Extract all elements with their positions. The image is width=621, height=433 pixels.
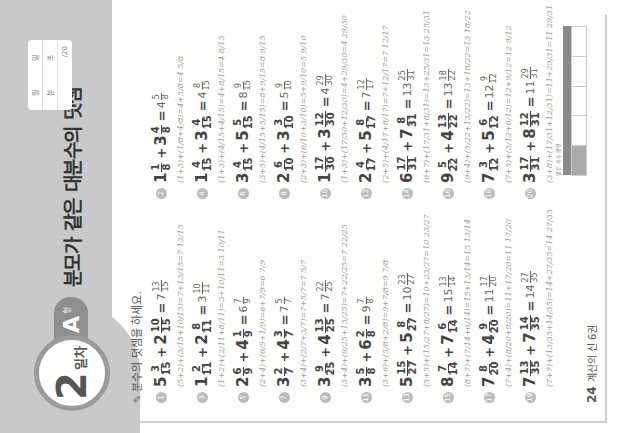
addend-b-fraction: 1322 bbox=[438, 113, 459, 129]
problem-number: 12 bbox=[361, 188, 372, 199]
problem-number: 11 bbox=[361, 392, 372, 403]
page-number: 24 bbox=[585, 386, 599, 403]
problem-number: 7 bbox=[279, 392, 290, 403]
plus-sign: + bbox=[523, 345, 538, 356]
equation: 15 8 714 + 7 614 = 15 1314 bbox=[435, 209, 461, 403]
second-label: 초 bbox=[45, 40, 55, 75]
addend-b-fraction: 48 bbox=[151, 125, 172, 134]
handwritten-work: (1+3)+(4/15+4/15)=4+8/15=4 8/15 bbox=[215, 5, 228, 183]
problem-number: 15 bbox=[443, 392, 454, 403]
addend-a-whole: 5 bbox=[152, 377, 170, 387]
plus-sign: + bbox=[195, 143, 210, 154]
problem-number: 9 bbox=[320, 392, 331, 403]
addend-b-fraction: 37 bbox=[274, 329, 295, 338]
answer[interactable]: 7 1217 bbox=[358, 76, 375, 98]
handwritten-work: (3+5)+(4/15+5/15)=8+9/15=8 9/15 bbox=[256, 5, 269, 183]
plus-sign: + bbox=[441, 143, 456, 154]
addend-b-fraction: 415 bbox=[192, 115, 213, 129]
answer[interactable]: 9 78 bbox=[358, 295, 375, 312]
worksheet-page: 2 일차 A 형 분모가 같은 대분수의 덧셈 월일 분초 /20 ✎분수의 덧… bbox=[0, 0, 621, 433]
addend-a-whole: 7 bbox=[480, 377, 498, 387]
addend-a-whole: 3 bbox=[357, 377, 375, 387]
problem-item: 8 2 610 + 3 310 = 5 910 (2+3)+(6/10+3/10… bbox=[271, 5, 312, 199]
addend-a-whole: 2 bbox=[275, 173, 293, 183]
addend-a-whole: 7 bbox=[521, 377, 539, 387]
equation: 14 6 1731 + 7 831 = 13 2531 bbox=[394, 5, 420, 199]
answer[interactable]: 3 1011 bbox=[194, 280, 211, 302]
addend-b-whole: 5 bbox=[234, 130, 252, 140]
problem-item: 7 3 27 + 4 37 = 7 57 (3+4)+(2/7+3/7)=7+5… bbox=[271, 209, 312, 403]
addend-b-fraction: 310 bbox=[274, 115, 295, 129]
handwritten-work: (1+2)+(2/11+8/11)=3+10/11=3 10/11 bbox=[215, 209, 228, 387]
plus-sign: + bbox=[154, 347, 169, 358]
addend-b-whole: 5 bbox=[398, 332, 416, 342]
addend-b-whole: 2 bbox=[152, 334, 170, 344]
addend-b-fraction: 827 bbox=[397, 317, 418, 331]
addend-a-fraction: 820 bbox=[479, 362, 500, 376]
type-suffix: 형 bbox=[61, 307, 72, 314]
problem-number: 20 bbox=[525, 188, 536, 199]
answer[interactable]: 4 58 bbox=[153, 91, 170, 108]
equation: 17 7 820 + 4 920 = 11 1720 bbox=[476, 209, 502, 403]
handwritten-work: (1+3)+(17/30+12/30)=4+29/30=4 29/30 bbox=[338, 5, 351, 183]
answer[interactable]: 12 912 bbox=[481, 71, 498, 98]
answer[interactable]: 6 79 bbox=[235, 295, 252, 312]
plus-sign: + bbox=[482, 143, 497, 154]
equation: 1 5 315 + 2 1015 = 7 1315 bbox=[148, 209, 174, 403]
addend-a-whole: 8 bbox=[439, 377, 457, 387]
addend-b-whole: 6 bbox=[357, 339, 375, 349]
problem-item: 5 2 69 + 4 19 = 6 79 (2+4)+(6/9+1/9)=6+7… bbox=[230, 209, 271, 403]
equation: 12 2 417 + 5 817 = 7 1217 bbox=[353, 5, 379, 199]
answer[interactable]: 4 815 bbox=[194, 78, 211, 98]
answer[interactable]: 7 2225 bbox=[317, 278, 334, 300]
problem-item: 9 3 925 + 4 1325 = 7 2225 (3+4)+(9/25+13… bbox=[312, 209, 353, 403]
addend-a-fraction: 1731 bbox=[520, 156, 541, 172]
problem-number: 13 bbox=[402, 392, 413, 403]
addend-a-whole: 3 bbox=[316, 377, 334, 387]
addend-b-fraction: 612 bbox=[479, 115, 500, 129]
addend-b-whole: 3 bbox=[152, 135, 170, 145]
addend-b-fraction: 811 bbox=[192, 319, 213, 333]
problem-number: 2 bbox=[156, 188, 167, 199]
type-letter: A bbox=[59, 316, 84, 333]
answer[interactable]: 8 915 bbox=[235, 78, 252, 98]
answer[interactable]: 11 1720 bbox=[481, 273, 498, 302]
answer[interactable]: 14 2735 bbox=[522, 269, 539, 298]
page-footer: 24계산의 신 6권 bbox=[584, 325, 599, 403]
answer[interactable]: 10 2327 bbox=[399, 271, 416, 300]
answer[interactable]: 7 57 bbox=[276, 295, 293, 312]
pencil-icon: ✎ bbox=[132, 395, 143, 403]
addend-a-whole: 1 bbox=[193, 377, 211, 387]
plus-sign: + bbox=[400, 141, 415, 152]
problem-item: 13 5 1527 + 5 827 = 10 2327 (5+5)+(15/27… bbox=[394, 209, 435, 403]
answer[interactable]: 5 910 bbox=[276, 78, 293, 98]
problem-item: 18 7 312 + 5 612 = 12 912 (7+5)+(3/12+6/… bbox=[476, 5, 517, 199]
problem-number: 3 bbox=[197, 392, 208, 403]
answer[interactable]: 4 2930 bbox=[317, 72, 334, 94]
answer[interactable]: 7 1315 bbox=[153, 278, 170, 300]
answer[interactable]: 15 1314 bbox=[440, 273, 457, 302]
addend-b-fraction: 817 bbox=[356, 115, 377, 129]
addend-b-whole: 7 bbox=[521, 332, 539, 342]
addend-a-fraction: 522 bbox=[438, 158, 459, 172]
addend-a-whole: 2 bbox=[357, 173, 375, 183]
answer[interactable]: 13 2531 bbox=[399, 67, 416, 96]
addend-a-whole: 1 bbox=[193, 173, 211, 183]
answer[interactable]: 11 2931 bbox=[522, 65, 539, 94]
addend-a-whole: 1 bbox=[316, 173, 334, 183]
equals-sign: = bbox=[154, 302, 169, 313]
answer[interactable]: 13 1822 bbox=[440, 67, 457, 96]
addend-a-whole: 7 bbox=[480, 173, 498, 183]
handwritten-work: (7+4)+(8/20+9/20)=11+17/20=11 17/20 bbox=[502, 209, 515, 387]
addend-a-fraction: 714 bbox=[438, 362, 459, 376]
equals-sign: = bbox=[441, 304, 456, 315]
addend-b-fraction: 28 bbox=[356, 329, 377, 338]
problem-item: 14 6 1731 + 7 831 = 13 2531 (6+7)+(17/31… bbox=[394, 5, 435, 199]
instruction: ✎분수의 덧셈을 하세요. bbox=[128, 291, 144, 403]
plus-sign: + bbox=[359, 352, 374, 363]
day-number: 2 bbox=[52, 372, 92, 400]
problem-item: 15 8 714 + 7 614 = 15 1314 (8+7)+(7/14+6… bbox=[435, 209, 476, 403]
plus-sign: + bbox=[482, 347, 497, 358]
addend-b-fraction: 1435 bbox=[520, 315, 541, 331]
score-total: /20 bbox=[61, 46, 69, 57]
